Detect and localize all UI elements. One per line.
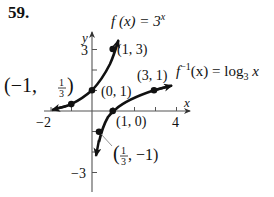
svg-text:3: 3: [121, 156, 126, 167]
point-neg1-third: [68, 101, 75, 108]
log-curve-down-arrow: [96, 140, 99, 156]
svg-text:): ): [67, 74, 74, 97]
svg-text:(−1,: (−1,: [4, 74, 37, 97]
exp-function-label: f (x) = 3x: [111, 11, 166, 30]
point-label-3-1: (3, 1): [137, 68, 168, 84]
point-label-1-0: (1, 0): [116, 114, 147, 130]
point-1-3: [109, 46, 116, 53]
x-axis-label: x: [183, 95, 190, 110]
log-function-label: f−1(x) = log3 x: [176, 61, 259, 82]
graph-canvas: 59. x y −2 4 3 −3: [0, 0, 274, 197]
point-label-third-neg1: ( 1 3 , −1): [113, 142, 158, 167]
graph-figure: 59. x y −2 4 3 −3: [0, 0, 274, 197]
problem-number: 59.: [8, 3, 29, 22]
point-3-1: [151, 87, 158, 94]
point-label-1-3: (1, 3): [117, 42, 148, 58]
x-tick-label-4: 4: [172, 115, 179, 130]
svg-text:(: (: [113, 142, 120, 165]
svg-text:, −1): , −1): [128, 146, 158, 164]
y-tick-label-3: 3: [81, 43, 88, 58]
svg-text:1: 1: [121, 145, 126, 156]
leader-line: [101, 134, 112, 146]
point-1-0: [109, 108, 116, 115]
point-label-0-1: (0, 1): [101, 84, 132, 100]
point-label-neg1-third: (−1, 1 3 ): [4, 74, 74, 99]
svg-text:3: 3: [59, 88, 64, 99]
svg-text:1: 1: [59, 77, 64, 88]
x-tick-label-neg2: −2: [36, 115, 51, 130]
point-0-1: [89, 87, 96, 94]
y-tick-label-neg3: −3: [71, 166, 86, 181]
